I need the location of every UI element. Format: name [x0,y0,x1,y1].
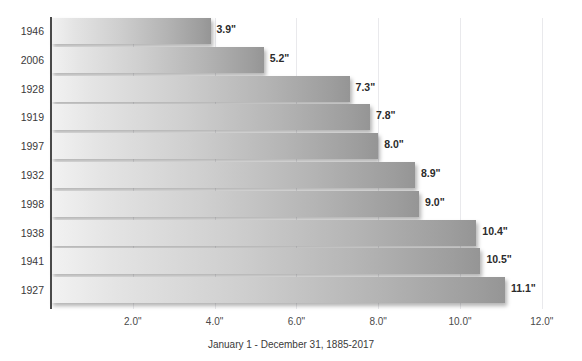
bar-row[interactable]: 3.9" [51,18,582,44]
x-tick-12.0in: 12.0" [512,316,572,327]
bar-value-label-1932: 8.9" [421,167,441,179]
bar-row[interactable]: 7.8" [51,104,582,130]
bar-value-label-1946: 3.9" [217,23,237,35]
bar-row[interactable]: 8.0" [51,133,582,159]
bar-row[interactable]: 10.5" [51,248,582,274]
chart-title-remnant [26,0,276,3]
x-tick-6.0in: 6.0" [266,316,326,327]
x-tick-8.0in: 8.0" [348,316,408,327]
bar-1927[interactable] [51,277,505,303]
bar-row[interactable]: 7.3" [51,76,582,102]
bar-value-label-1941: 10.5" [486,253,511,265]
y-axis-label-1932: 1932 [0,169,44,181]
bar-1941[interactable] [51,248,480,274]
y-axis-label-1997: 1997 [0,140,44,152]
bar-value-label-1928: 7.3" [356,81,376,93]
y-axis-label-1941: 1941 [0,255,44,267]
bar-1998[interactable] [51,191,419,217]
bar-value-label-2006: 5.2" [270,52,290,64]
bar-1932[interactable] [51,162,415,188]
bar-value-label-1938: 10.4" [482,225,507,237]
y-axis-label-1938: 1938 [0,227,44,239]
y-axis-label-1919: 1919 [0,111,44,123]
x-tick-4.0in: 4.0" [185,316,245,327]
bar-value-label-1919: 7.8" [376,109,396,121]
bar-1946[interactable] [51,18,211,44]
x-tick-2.0in: 2.0" [103,316,163,327]
bar-row[interactable]: 5.2" [51,47,582,73]
y-axis-label-1928: 1928 [0,83,44,95]
plot-area: 3.9"5.2"7.3"7.8"8.0"8.9"9.0"10.4"10.5"11… [51,18,582,309]
bar-row[interactable]: 11.1" [51,277,582,303]
bar-2006[interactable] [51,47,264,73]
bar-row[interactable]: 8.9" [51,162,582,188]
bar-1919[interactable] [51,104,370,130]
bar-value-label-1927: 11.1" [511,282,536,294]
bar-value-label-1997: 8.0" [384,138,404,150]
bar-row[interactable]: 10.4" [51,220,582,246]
x-axis-caption: January 1 - December 31, 1885-2017 [0,339,582,350]
x-tick-10.0in: 10.0" [430,316,490,327]
bar-value-label-1998: 9.0" [425,196,445,208]
bar-row[interactable]: 9.0" [51,191,582,217]
y-axis-label-2006: 2006 [0,54,44,66]
bar-1997[interactable] [51,133,378,159]
bar-chart: 3.9"5.2"7.3"7.8"8.0"8.9"9.0"10.4"10.5"11… [0,0,582,361]
y-axis-label-1998: 1998 [0,198,44,210]
y-axis-label-1946: 1946 [0,25,44,37]
y-axis-label-1927: 1927 [0,284,44,296]
bar-1928[interactable] [51,76,350,102]
bar-1938[interactable] [51,220,476,246]
y-axis-line [50,17,52,309]
